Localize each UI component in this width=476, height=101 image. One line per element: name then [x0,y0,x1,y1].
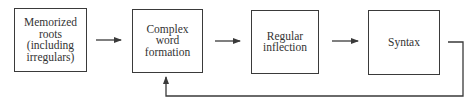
feedback-arrow-syntax-to-complex [166,42,463,96]
connectors [0,0,476,101]
